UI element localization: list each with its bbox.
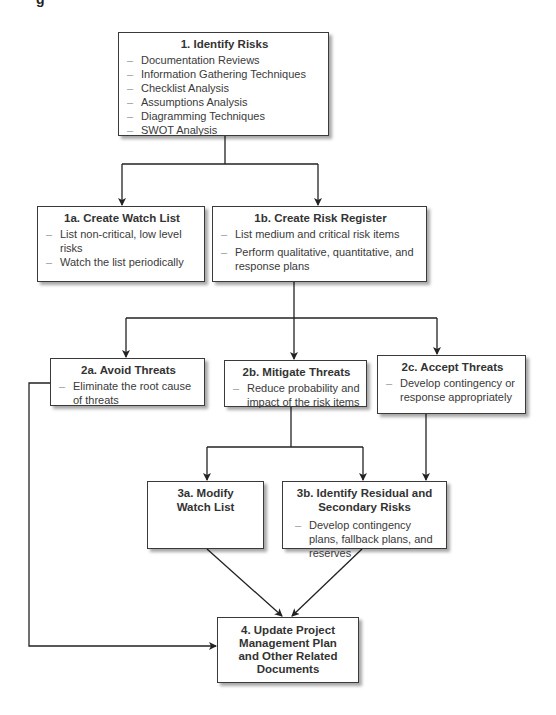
list-item: SWOT Analysis <box>127 123 322 137</box>
node-title: 2b. Mitigate Threats <box>233 365 360 379</box>
node-mitigate-threats: 2b. Mitigate Threats Reduce probability … <box>224 360 367 407</box>
node-items: List non-critical, low level risks Watch… <box>46 227 198 269</box>
node-items: List medium and critical risk items Perf… <box>221 227 420 273</box>
list-item: Watch the list periodically <box>46 255 198 269</box>
list-item: Reduce probability and impact of the ris… <box>233 381 360 409</box>
node-title: 1b. Create Risk Register <box>221 211 420 225</box>
list-item: List non-critical, low level risks <box>46 227 198 255</box>
node-update-project-management-plan: 4. Update Project Management Plan and Ot… <box>217 617 359 683</box>
list-item: Checklist Analysis <box>127 81 322 95</box>
node-items: Reduce probability and impact of the ris… <box>233 381 360 409</box>
list-item: List medium and critical risk items <box>221 227 420 241</box>
list-item: Develop contingency plans, fallback plan… <box>295 518 434 560</box>
node-title: 3b. Identify Residual and Secondary Risk… <box>295 486 434 514</box>
node-items: Develop contingency plans, fallback plan… <box>295 518 434 560</box>
node-modify-watch-list: 3a. Modify Watch List <box>147 481 264 549</box>
node-title: 2a. Avoid Threats <box>59 363 198 377</box>
node-items: Develop contingency or response appropri… <box>386 376 519 404</box>
list-item: Develop contingency or response appropri… <box>386 376 519 404</box>
node-title: 2c. Accept Threats <box>386 360 519 374</box>
node-accept-threats: 2c. Accept Threats Develop contingency o… <box>377 355 526 414</box>
list-item: Eliminate the root cause of threats <box>59 379 198 407</box>
edge-3a-to-4 <box>207 549 282 616</box>
node-title: 4. Update Project Management Plan and Ot… <box>232 624 344 676</box>
node-items: Eliminate the root cause of threats <box>59 379 198 407</box>
list-item: Documentation Reviews <box>127 53 322 67</box>
node-items: Documentation Reviews Information Gather… <box>127 53 322 137</box>
list-item: Diagramming Techniques <box>127 109 322 123</box>
node-title: 3a. Modify Watch List <box>162 486 249 514</box>
list-item: Assumptions Analysis <box>127 95 322 109</box>
list-item: Perform qualitative, quantitative, and r… <box>221 245 420 273</box>
node-create-watch-list: 1a. Create Watch List List non-critical,… <box>37 206 205 282</box>
node-title: 1. Identify Risks <box>127 37 322 51</box>
node-avoid-threats: 2a. Avoid Threats Eliminate the root cau… <box>50 358 205 406</box>
list-item: Information Gathering Techniques <box>127 67 322 81</box>
node-identify-residual-secondary-risks: 3b. Identify Residual and Secondary Risk… <box>282 481 447 549</box>
node-create-risk-register: 1b. Create Risk Register List medium and… <box>212 206 427 282</box>
node-identify-risks: 1. Identify Risks Documentation Reviews … <box>118 32 329 136</box>
node-title: 1a. Create Watch List <box>46 211 198 225</box>
